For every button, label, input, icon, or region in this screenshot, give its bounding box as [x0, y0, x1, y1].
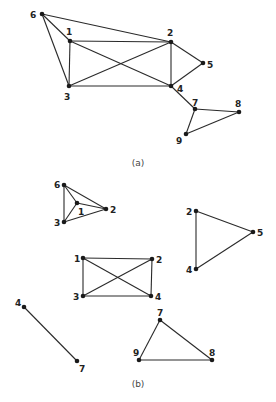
- node-label: 2: [167, 28, 173, 38]
- graph-figure: 612345789 (a) 6123254123447798 (b): [0, 0, 276, 402]
- edge-4-5: [171, 63, 203, 86]
- node-label: 3: [64, 92, 70, 102]
- edge-7-8: [195, 109, 239, 112]
- edge-6-3: [42, 14, 69, 86]
- node-3: [67, 84, 72, 89]
- node-3: [62, 220, 67, 225]
- node-1: [81, 256, 86, 261]
- node-label: 7: [79, 364, 85, 374]
- node-5: [251, 230, 256, 235]
- node-7: [75, 359, 80, 364]
- edge-1-2: [83, 258, 152, 259]
- node-label: 5: [207, 60, 213, 70]
- node-1: [68, 39, 73, 44]
- node-label: 8: [209, 348, 215, 358]
- node-8: [237, 110, 242, 115]
- node-4: [22, 305, 27, 310]
- caption-a: (a): [132, 158, 145, 168]
- edge-6-2: [42, 14, 171, 42]
- panel-a: 612345789 (a): [30, 10, 241, 168]
- node-label: 1: [74, 254, 80, 264]
- node-label: 3: [73, 292, 79, 302]
- node-3: [81, 294, 86, 299]
- edge-2-4: [151, 259, 152, 296]
- node-5: [201, 61, 206, 66]
- node-4: [169, 84, 174, 89]
- edge-4-5: [196, 232, 253, 269]
- edge-9-8: [186, 112, 239, 134]
- node-label: 4: [186, 265, 192, 275]
- node-label: 5: [257, 228, 263, 238]
- node-9: [137, 358, 142, 363]
- node-8: [210, 358, 215, 363]
- node-label: 3: [54, 218, 60, 228]
- edge-2-5: [196, 211, 253, 232]
- edge-3-2: [64, 209, 106, 222]
- node-label: 6: [54, 180, 60, 190]
- node-label: 9: [133, 348, 139, 358]
- node-4: [194, 267, 199, 272]
- node-label: 4: [177, 84, 183, 94]
- node-label: 7: [157, 308, 163, 318]
- node-label: 8: [235, 99, 241, 109]
- node-1: [75, 201, 80, 206]
- edge-1-3: [69, 41, 70, 86]
- node-9: [184, 132, 189, 137]
- edge-2-5: [171, 42, 203, 63]
- node-4: [149, 294, 154, 299]
- nodes-b: 6123254123447798: [15, 180, 263, 374]
- edges-b: [24, 185, 253, 361]
- node-6: [40, 12, 45, 17]
- panel-b: 6123254123447798 (b): [15, 180, 263, 389]
- caption-b: (b): [132, 379, 145, 389]
- node-label: 9: [176, 136, 182, 146]
- nodes-a: 612345789: [30, 10, 241, 146]
- edge-7-8: [160, 320, 212, 360]
- node-label: 1: [66, 27, 72, 37]
- edge-6-1: [64, 185, 77, 203]
- node-label: 2: [186, 207, 192, 217]
- node-2: [150, 257, 155, 262]
- node-label: 4: [15, 298, 21, 308]
- edge-4-7: [24, 307, 77, 361]
- node-7: [158, 318, 163, 323]
- node-label: 4: [155, 292, 161, 302]
- node-label: 2: [110, 205, 116, 215]
- node-2: [169, 40, 174, 45]
- node-label: 1: [78, 207, 84, 217]
- edge-1-2: [70, 41, 171, 42]
- node-2: [104, 207, 109, 212]
- node-label: 7: [192, 98, 198, 108]
- node-label: 2: [156, 255, 162, 265]
- node-2: [194, 209, 199, 214]
- edge-6-2: [64, 185, 106, 209]
- edge-7-9: [139, 320, 160, 360]
- node-label: 6: [30, 10, 36, 20]
- node-6: [62, 183, 67, 188]
